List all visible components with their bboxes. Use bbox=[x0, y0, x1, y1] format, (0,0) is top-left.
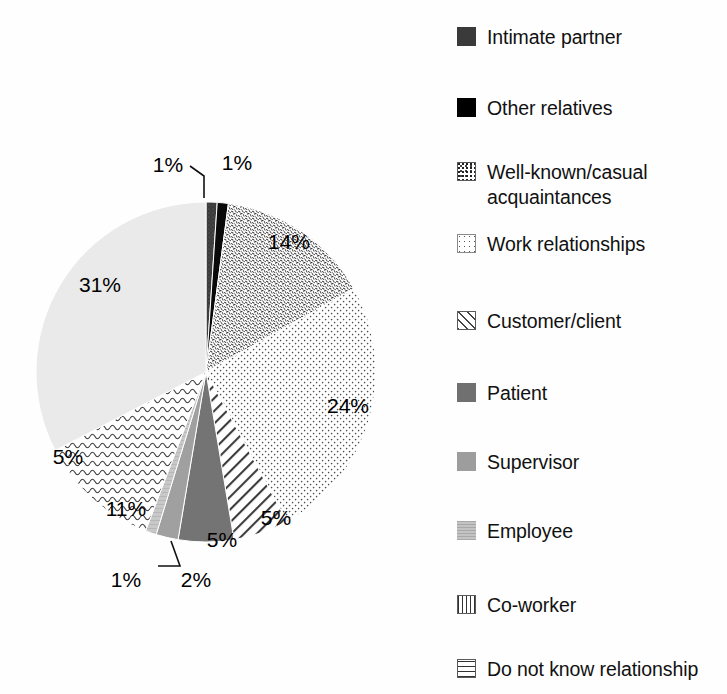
legend-item[interactable]: Supervisor bbox=[457, 450, 579, 475]
swatch-dark-gray-icon bbox=[457, 383, 476, 402]
pie-slices-group bbox=[36, 202, 376, 542]
pie-slice-value-label: 31% bbox=[79, 273, 121, 296]
swatch-medium-gray-icon bbox=[457, 452, 476, 471]
pie-slice-value-label: 1% bbox=[111, 568, 141, 591]
pie-slice-value-label: 5% bbox=[207, 528, 237, 551]
swatch-solid-black-icon bbox=[457, 98, 476, 117]
pie-slice-value-label: 5% bbox=[53, 445, 83, 468]
chart-legend: Intimate partnerOther relativesWell-know… bbox=[457, 0, 727, 694]
swatch-light-gray-icon bbox=[457, 521, 476, 540]
legend-item[interactable]: Patient bbox=[457, 381, 547, 406]
legend-item[interactable]: Intimate partner bbox=[457, 25, 622, 50]
legend-item-label: Do not know relationship bbox=[487, 657, 698, 682]
swatch-diagonal-stripes-icon bbox=[457, 311, 476, 330]
pie-slice-value-label: 14% bbox=[268, 230, 310, 253]
pie-slice-value-label: 5% bbox=[261, 506, 291, 529]
pie-leader-line bbox=[158, 541, 180, 566]
legend-item-label: Patient bbox=[487, 381, 547, 406]
legend-item[interactable]: Well-known/casual acquaintances bbox=[457, 160, 648, 210]
legend-item-label: Well-known/casual acquaintances bbox=[487, 160, 648, 210]
legend-item[interactable]: Other relatives bbox=[457, 96, 612, 121]
pie-slice-value-label: 11% bbox=[106, 497, 146, 520]
legend-item-label: Co-worker bbox=[487, 593, 576, 618]
swatch-dark-gray-speckle-icon bbox=[457, 27, 476, 46]
legend-item-label: Supervisor bbox=[487, 450, 579, 475]
legend-item[interactable]: Work relationships bbox=[457, 232, 645, 257]
pie-slice-value-label: 1% bbox=[222, 151, 252, 174]
legend-item[interactable]: Employee bbox=[457, 519, 573, 544]
legend-item-label: Work relationships bbox=[487, 232, 645, 257]
pie-chart-figure: 1%1%14%24%5%5%2%1%11%31%5% Intimate part… bbox=[0, 0, 727, 694]
pie-slice-value-label: 24% bbox=[327, 394, 369, 417]
pie-leader-line bbox=[190, 166, 204, 198]
legend-item-label: Customer/client bbox=[487, 309, 621, 334]
swatch-squiggle-icon bbox=[457, 659, 476, 678]
legend-item-label: Intimate partner bbox=[487, 25, 622, 50]
pie-slice-value-label: 1% bbox=[153, 153, 183, 176]
pie-slice-value-label: 2% bbox=[181, 568, 211, 591]
legend-item-label: Employee bbox=[487, 519, 573, 544]
legend-item[interactable]: Co-worker bbox=[457, 593, 576, 618]
legend-item-label: Other relatives bbox=[487, 96, 612, 121]
swatch-zigzag-icon bbox=[457, 595, 476, 614]
swatch-fine-dots-icon bbox=[457, 234, 476, 253]
legend-item[interactable]: Do not know relationship bbox=[457, 657, 698, 682]
swatch-confetti-speckle-icon bbox=[457, 162, 476, 181]
legend-item[interactable]: Customer/client bbox=[457, 309, 621, 334]
